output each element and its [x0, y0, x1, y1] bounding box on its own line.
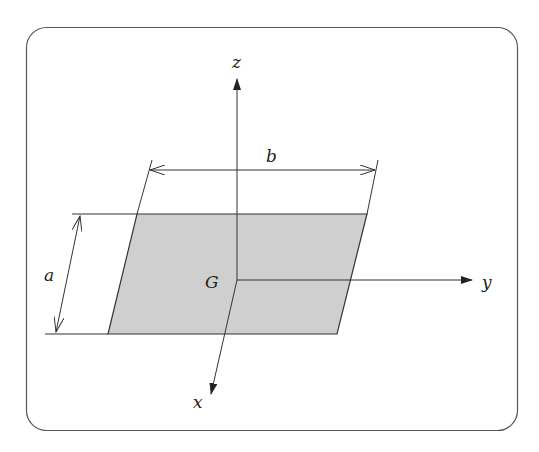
extension-line-right — [367, 160, 378, 214]
dimension-a-line — [56, 216, 80, 332]
plate-diagram: z y x G a b — [0, 0, 539, 452]
x-axis-label: x — [193, 392, 203, 412]
centroid-label: G — [205, 272, 219, 292]
dimension-a-label: a — [44, 265, 54, 285]
extension-line-left — [137, 160, 152, 214]
z-axis-label: z — [231, 52, 242, 72]
y-axis-label: y — [481, 272, 492, 292]
dimension-b-label: b — [266, 146, 277, 166]
